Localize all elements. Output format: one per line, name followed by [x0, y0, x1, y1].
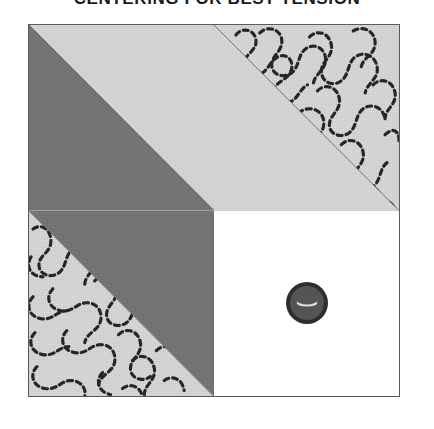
quilt-block-diagram	[28, 24, 400, 397]
quadrant-bottom-right	[214, 211, 399, 397]
light-fabric-patch	[214, 25, 399, 211]
page-title: CENTERING FOR BEST TENSION	[0, 0, 434, 9]
quadrant-top-left	[29, 25, 214, 211]
quadrant-bottom-left	[29, 211, 214, 397]
button-slot-icon	[296, 300, 318, 307]
quadrant-top-right	[214, 25, 399, 211]
page-title-bar: CENTERING FOR BEST TENSION	[0, 0, 434, 11]
button-embellishment	[286, 282, 328, 324]
